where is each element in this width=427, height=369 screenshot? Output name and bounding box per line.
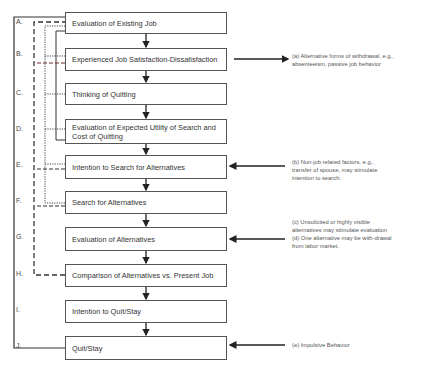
step-box: Intention to Search for Alternatives [65, 155, 227, 179]
step-label: Intention to Search for Alternatives [72, 163, 185, 172]
step-box: Evaluation of Alternatives [65, 227, 227, 251]
step-letter: F. [16, 197, 21, 204]
step-letter: J. [16, 342, 21, 349]
step-box: Evaluation of Expected Utility of Search… [65, 119, 227, 144]
step-letter: B. [16, 50, 23, 57]
step-label: Experienced Job Satisfaction-Dissatisfac… [72, 55, 217, 64]
step-letter: A. [16, 18, 23, 25]
note-e: (e) Impulsive Behavior [292, 341, 422, 349]
step-box: Quit/Stay [65, 336, 227, 360]
step-label: Evaluation of Existing Job [72, 19, 157, 28]
step-label: Comparison of Alternatives vs. Present J… [72, 271, 213, 280]
step-letter: H. [16, 270, 23, 277]
note-a: (a) Alternative forms of withdrawal, e.g… [292, 52, 422, 68]
step-label: Intention to Quit/Stay [72, 307, 141, 316]
step-letter: C. [16, 89, 23, 96]
step-letter: I. [16, 306, 20, 313]
step-letter: E. [16, 161, 23, 168]
feedback-line-j-to-a [14, 17, 65, 348]
feedback-line-f-to-a [45, 26, 65, 203]
turnover-process-diagram: A.Evaluation of Existing JobB.Experience… [0, 0, 427, 369]
step-box: Intention to Quit/Stay [65, 300, 227, 323]
step-box: Search for Alternatives [65, 191, 227, 214]
step-letter: D. [16, 125, 23, 132]
step-box: Evaluation of Existing Job [65, 12, 227, 34]
feedback-line-d-to-a [56, 31, 65, 140]
feedback-line-h-to-a [34, 22, 65, 275]
step-letter: G. [16, 233, 23, 240]
step-box: Thinking of Quitting [65, 83, 227, 105]
step-label: Evaluation of Expected Utility of Search… [72, 123, 226, 141]
note-c-d: (c) Unsolicited or highly visible altern… [292, 218, 397, 250]
step-label: Quit/Stay [72, 344, 102, 353]
step-box: Comparison of Alternatives vs. Present J… [65, 264, 227, 287]
note-b: (b) Non-job related factors, e.g., trans… [292, 158, 387, 182]
step-box: Experienced Job Satisfaction-Dissatisfac… [65, 48, 227, 71]
step-label: Evaluation of Alternatives [72, 235, 155, 244]
step-label: Search for Alternatives [72, 198, 146, 207]
step-label: Thinking of Quitting [72, 90, 136, 99]
